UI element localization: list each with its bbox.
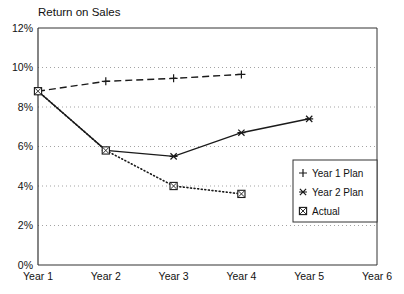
- data-point-marker-boxed-x: [34, 88, 41, 95]
- x-tick-label-year-6: Year 6: [362, 270, 392, 282]
- legend-label: Year 1 Plan: [312, 168, 363, 179]
- return-on-sales-line-chart: Return on Sales 0%2%4%6%8%10%12% Year 1Y…: [0, 0, 404, 294]
- y-tick-label-10pct: 10%: [12, 61, 33, 73]
- legend-label: Actual: [312, 206, 340, 217]
- y-tick-label-8pct: 8%: [18, 101, 33, 113]
- x-tick-label-year-4: Year 4: [226, 270, 256, 282]
- y-tick-label-12pct: 12%: [12, 22, 33, 34]
- chart-container: Return on Sales 0%2%4%6%8%10%12% Year 1Y…: [0, 0, 404, 294]
- chart-legend[interactable]: Year 1 PlanYear 2 PlanActual: [293, 160, 377, 222]
- data-point-marker-boxed-x: [170, 182, 177, 189]
- chart-title: Return on Sales: [38, 6, 121, 18]
- data-point-marker-boxed-x: [102, 147, 109, 154]
- y-tick-label-6pct: 6%: [18, 140, 33, 152]
- x-tick-label-year-1: Year 1: [23, 270, 53, 282]
- legend-label: Year 2 Plan: [312, 187, 363, 198]
- x-tick-label-year-2: Year 2: [91, 270, 121, 282]
- x-tick-label-year-3: Year 3: [159, 270, 189, 282]
- data-point-marker-boxed-x: [299, 207, 306, 214]
- data-point-marker-boxed-x: [238, 190, 245, 197]
- y-tick-label-2pct: 2%: [18, 219, 33, 231]
- x-tick-label-year-5: Year 5: [294, 270, 324, 282]
- y-tick-label-0pct: 0%: [18, 259, 33, 271]
- legend-item-actual[interactable]: Actual: [299, 206, 339, 217]
- y-tick-label-4pct: 4%: [18, 180, 33, 192]
